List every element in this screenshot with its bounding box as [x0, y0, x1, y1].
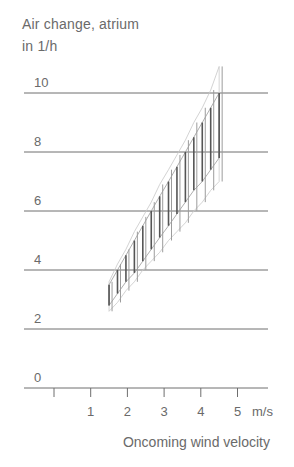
x-axis-label: Oncoming wind velocity — [123, 434, 270, 450]
x-unit-label: m/s — [252, 404, 273, 419]
y-tick-label: 8 — [34, 134, 41, 149]
x-tick-label: 5 — [234, 404, 241, 419]
chart-plot: 0246810 12345m/s — [0, 0, 294, 467]
x-tick-label: 2 — [124, 404, 131, 419]
y-tick-label: 2 — [34, 311, 41, 326]
x-tick-label: 4 — [197, 404, 204, 419]
y-tick-label: 0 — [34, 370, 41, 385]
x-tick-label: 3 — [160, 404, 167, 419]
range-bars — [109, 66, 222, 311]
x-tick-label: 1 — [87, 404, 94, 419]
y-tick-label: 10 — [34, 75, 48, 90]
y-tick-label: 6 — [34, 193, 41, 208]
x-axis: 12345m/s — [54, 388, 273, 419]
y-tick-label: 4 — [34, 252, 41, 267]
